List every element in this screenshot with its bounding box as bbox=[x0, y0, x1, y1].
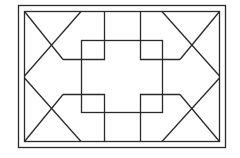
geometric-pattern-diagram bbox=[0, 0, 240, 158]
top-left-motif bbox=[25, 12, 105, 77]
inner-frame bbox=[25, 12, 220, 142]
bottom-left-motif bbox=[25, 78, 105, 142]
outer-frame bbox=[19, 6, 226, 148]
center-square bbox=[82, 41, 163, 113]
top-right-motif bbox=[141, 12, 220, 77]
bottom-right-motif bbox=[141, 78, 220, 142]
